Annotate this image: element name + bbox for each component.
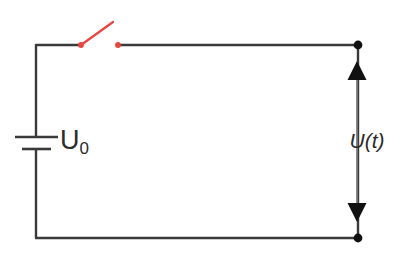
node-bottom-right-dot <box>354 234 363 243</box>
circuit-diagram-canvas: U0 U(t) <box>0 0 400 255</box>
measured-voltage-label: U(t) <box>350 130 385 151</box>
switch-lever[interactable] <box>81 22 113 45</box>
voltage-arrowhead-down <box>348 203 367 222</box>
source-voltage-symbol: U <box>60 125 80 155</box>
switch-contact-left <box>78 42 84 48</box>
voltage-arrowhead-up <box>348 61 367 80</box>
source-voltage-label: U0 <box>60 127 89 157</box>
battery-symbol <box>15 137 58 149</box>
node-top-right-dot <box>354 41 363 50</box>
switch-symbol[interactable] <box>78 22 121 48</box>
source-voltage-subscript: 0 <box>80 139 89 158</box>
switch-contact-right <box>115 42 121 48</box>
